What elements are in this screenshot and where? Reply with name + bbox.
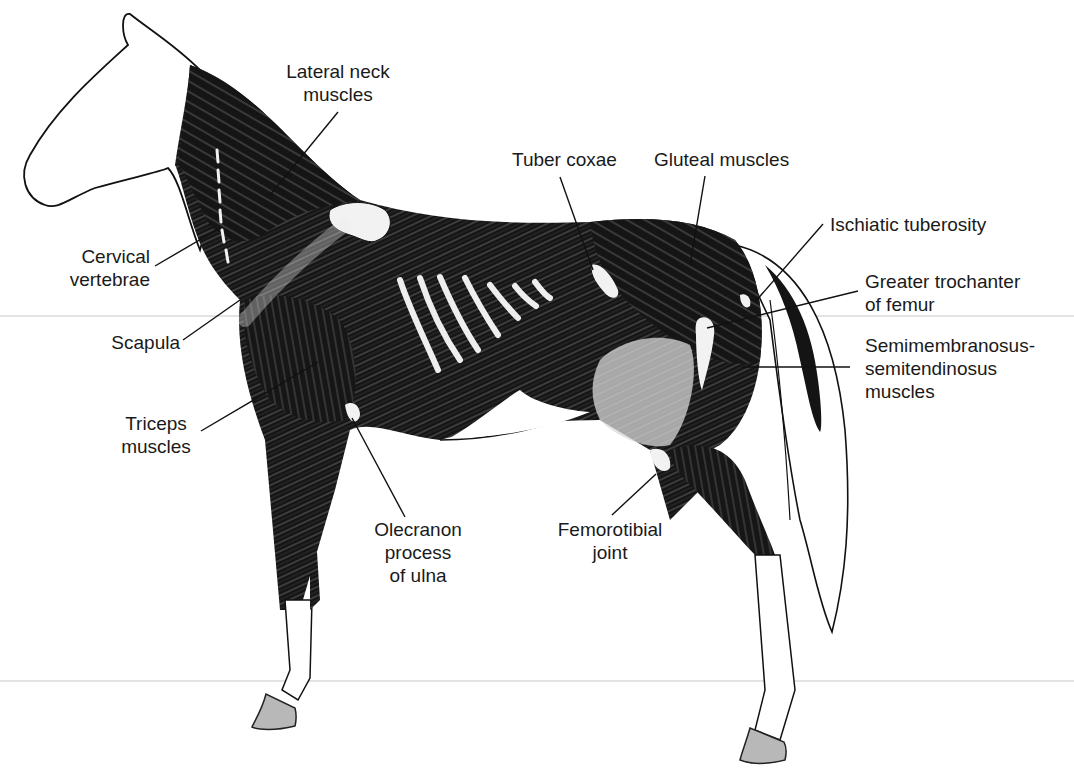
- label-triceps-muscles: Triceps muscles: [112, 412, 200, 458]
- label-gluteal-muscles: Gluteal muscles: [654, 148, 789, 171]
- leader-femorotibial: [612, 474, 656, 515]
- leader-olecranon: [352, 418, 405, 517]
- label-semimembranosus-semitendinosus: Semimembranosus- semitendinosus muscles: [865, 334, 1035, 403]
- leader-scapula: [183, 300, 240, 340]
- label-olecranon-process: Olecranon process of ulna: [368, 518, 468, 587]
- thigh-highlight: [593, 338, 694, 446]
- label-tuber-coxae: Tuber coxae: [512, 148, 617, 171]
- front-hoof: [252, 694, 296, 730]
- label-ischiatic-tuberosity: Ischiatic tuberosity: [830, 213, 986, 236]
- label-cervical-vertebrae: Cervical vertebrae: [60, 245, 150, 291]
- hind-legs: [755, 555, 795, 740]
- label-scapula: Scapula: [90, 331, 180, 354]
- label-lateral-neck-muscles: Lateral neck muscles: [276, 60, 400, 106]
- label-greater-trochanter: Greater trochanter of femur: [865, 270, 1020, 316]
- label-femorotibial-joint: Femorotibial joint: [548, 518, 672, 564]
